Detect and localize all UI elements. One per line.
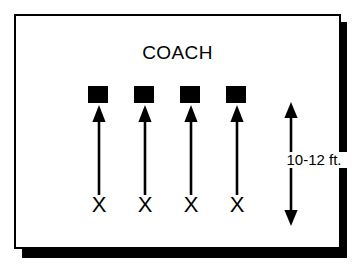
coach-drill-diagram: COACH X X [0,0,358,276]
player-x-label: X [176,194,206,216]
player-x-label: X [222,194,252,216]
diagram-frame: COACH X X [14,14,341,249]
arrow-up-icon [226,105,248,195]
distance-measurement: 10-12 ft. [274,102,354,226]
filled-square-icon [180,86,200,103]
arrow-up-icon [88,105,110,195]
player-x-label: X [84,194,114,216]
arrow-up-icon [180,105,202,195]
filled-square-icon [226,86,246,103]
filled-square-icon [134,86,154,103]
coach-label: COACH [16,42,339,64]
distance-label: 10-12 ft. [272,152,356,168]
player-x-label: X [130,194,160,216]
arrow-up-icon [134,105,156,195]
filled-square-icon [88,86,108,103]
